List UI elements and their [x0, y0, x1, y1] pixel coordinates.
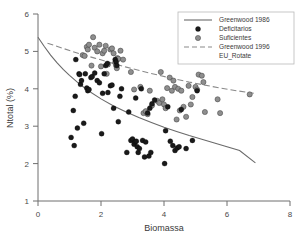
y-tick-label: 3 — [25, 122, 30, 131]
data-point — [179, 88, 184, 93]
data-point — [91, 35, 96, 40]
data-point — [79, 78, 84, 83]
legend-item-suficientes-swatch — [195, 35, 200, 40]
x-tick-label: 0 — [36, 210, 41, 219]
x-tick-label: 8 — [288, 210, 293, 219]
data-point — [215, 97, 220, 102]
y-axis-ticks: 123456 — [25, 10, 38, 206]
legend: Greenwood 1986DeficitariosSuficientesGre… — [178, 12, 294, 64]
data-point — [165, 104, 170, 109]
data-point — [118, 48, 123, 53]
data-point — [134, 139, 139, 144]
data-point — [89, 63, 94, 68]
data-point — [218, 111, 223, 116]
data-point — [174, 117, 179, 122]
data-point — [82, 53, 87, 58]
x-tick-label: 2 — [99, 210, 104, 219]
data-point — [148, 150, 153, 155]
x-axis-title: Biomassa — [144, 223, 184, 233]
data-point — [126, 110, 131, 115]
data-point — [121, 57, 126, 62]
x-axis-ticks: 02468 — [36, 201, 293, 219]
y-tick-label: 1 — [25, 197, 30, 206]
x-tick-label: 4 — [162, 210, 167, 219]
data-point — [190, 138, 195, 143]
data-point — [75, 126, 80, 131]
data-point — [201, 80, 206, 85]
scatter-chart: 123456 02468 Biomassa Ntotal (%) Greenwo… — [0, 0, 306, 243]
data-point — [102, 48, 107, 53]
data-point — [124, 150, 129, 155]
data-point — [110, 83, 115, 88]
data-point — [202, 109, 207, 114]
data-point — [133, 96, 138, 101]
data-point — [105, 61, 110, 66]
data-point — [111, 51, 116, 56]
data-point — [142, 154, 147, 159]
data-point — [98, 64, 103, 69]
data-point — [162, 161, 167, 166]
data-point — [190, 94, 195, 99]
legend-item-suficientes-label: Suficientes — [219, 34, 252, 41]
legend-item-deficitarios-swatch — [196, 27, 201, 32]
y-tick-label: 5 — [25, 47, 30, 56]
plot-canvas: 123456 02468 Biomassa Ntotal (%) Greenwo… — [0, 0, 306, 243]
data-point — [73, 94, 78, 99]
data-point — [179, 107, 184, 112]
y-tick-label: 6 — [25, 10, 30, 19]
y-tick-label: 4 — [25, 85, 30, 94]
data-point — [184, 114, 189, 119]
data-point — [163, 128, 168, 133]
data-point — [81, 121, 86, 126]
data-point — [72, 143, 77, 148]
data-point — [71, 108, 76, 113]
data-point — [168, 139, 173, 144]
data-point — [119, 86, 124, 91]
data-point — [147, 88, 152, 93]
data-point — [199, 73, 204, 78]
data-point — [139, 86, 144, 91]
data-point — [69, 135, 74, 140]
data-point — [111, 106, 116, 111]
data-point — [102, 71, 107, 76]
data-point — [73, 57, 78, 62]
data-point — [109, 46, 114, 51]
data-point — [114, 63, 119, 68]
data-point — [100, 91, 105, 96]
data-point — [97, 80, 102, 85]
x-tick-label: 6 — [225, 210, 230, 219]
legend-item-greenwood-1996-label: Greenwood 1996 — [219, 43, 270, 50]
legend-item-deficitarios-label: Deficitarios — [219, 25, 252, 32]
legend-item-eu-rotate-label: EU_Rotate — [219, 52, 252, 60]
data-point — [170, 143, 175, 148]
y-tick-label: 2 — [25, 160, 30, 169]
data-point — [77, 72, 82, 77]
data-point — [95, 49, 100, 54]
data-point — [247, 92, 252, 97]
data-point — [117, 94, 122, 99]
data-point — [147, 106, 152, 111]
data-point — [158, 69, 163, 74]
data-point — [171, 78, 176, 83]
y-axis-title: Ntotal (%) — [5, 88, 15, 128]
data-point — [132, 87, 137, 92]
data-point — [186, 83, 191, 88]
data-point — [99, 131, 104, 136]
data-point — [152, 98, 157, 103]
data-point — [83, 71, 88, 76]
data-point — [145, 111, 150, 116]
data-point — [188, 102, 193, 107]
data-point — [97, 42, 102, 47]
series-deficitarios-points — [69, 57, 200, 166]
data-point — [137, 146, 142, 151]
data-point — [128, 69, 133, 74]
data-point — [184, 146, 189, 151]
data-point — [143, 139, 148, 144]
data-point — [86, 42, 91, 47]
data-point — [87, 87, 92, 92]
legend-item-greenwood-1986-label: Greenwood 1986 — [219, 16, 270, 23]
data-point — [165, 86, 170, 91]
data-point — [105, 90, 110, 95]
data-point — [195, 88, 200, 93]
data-point — [116, 119, 121, 124]
